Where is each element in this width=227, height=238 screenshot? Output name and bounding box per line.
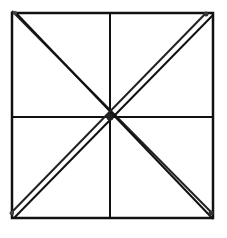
corner-dot-bottom-right bbox=[209, 211, 214, 216]
diagram-canvas bbox=[0, 0, 227, 238]
corner-dot-top-left bbox=[13, 11, 17, 15]
corner-dot-bottom-left bbox=[10, 211, 14, 215]
corner-dot-top-right bbox=[204, 12, 209, 17]
center-dot bbox=[107, 114, 114, 121]
